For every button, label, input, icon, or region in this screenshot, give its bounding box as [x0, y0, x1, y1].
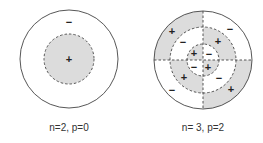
minus-sign: − — [216, 72, 222, 84]
minus-sign: − — [169, 84, 175, 96]
plus-sign: + — [191, 47, 197, 59]
plus-sign: + — [66, 53, 72, 65]
plus-sign: + — [181, 71, 187, 83]
minus-sign: − — [206, 48, 212, 60]
diagram-n2-p0: − + n=2, p=0 — [20, 10, 118, 133]
plus-sign: + — [215, 35, 221, 47]
diagram-n3-p2: + − − + + − − + + − − + n= 3, p=2 — [154, 11, 252, 133]
diagram-label: n=2, p=0 — [49, 122, 89, 133]
minus-sign: − — [66, 16, 72, 28]
plus-sign: + — [169, 25, 175, 37]
nodal-diagrams: − + n=2, p=0 + − − + + − − + + − − + n= … — [0, 0, 263, 143]
minus-sign: − — [180, 36, 186, 48]
minus-sign: − — [191, 61, 197, 73]
diagram-label: n= 3, p=2 — [182, 122, 225, 133]
plus-sign: + — [205, 61, 211, 73]
minus-sign: − — [227, 23, 233, 35]
plus-sign: + — [228, 83, 234, 95]
